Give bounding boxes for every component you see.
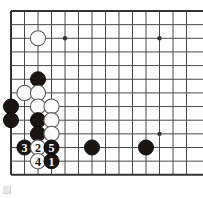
move-number-label: 2 (35, 141, 41, 155)
stone-move-5[interactable]: 5 (44, 140, 59, 155)
go-board-canvas[interactable]: 32541 (0, 0, 203, 198)
white-stone-disc (17, 85, 32, 100)
stone-black[interactable] (84, 140, 99, 155)
corner-fold-mark (3, 186, 11, 194)
white-stone-disc (30, 31, 45, 46)
stone-white[interactable] (30, 31, 45, 46)
move-number-label: 1 (49, 155, 55, 169)
stone-move-1[interactable]: 1 (44, 154, 59, 169)
white-stone-disc (44, 99, 59, 114)
star-point-lower-right (157, 132, 161, 136)
stone-black[interactable] (30, 72, 45, 87)
black-stone-disc (84, 140, 99, 155)
star-point-upper-left (63, 36, 67, 40)
black-stone-disc (30, 126, 45, 141)
stone-move-4[interactable]: 4 (30, 154, 45, 169)
stone-white[interactable] (44, 126, 59, 141)
black-stone-disc (3, 113, 18, 128)
stone-black[interactable] (30, 126, 45, 141)
stone-black[interactable] (3, 113, 18, 128)
black-stone-disc (30, 113, 45, 128)
white-stone-disc (44, 126, 59, 141)
stone-white[interactable] (17, 85, 32, 100)
stone-white[interactable] (44, 113, 59, 128)
white-stone-disc (30, 99, 45, 114)
go-board-diagram: 32541 (0, 0, 203, 198)
star-point-upper-right (157, 36, 161, 40)
stone-black[interactable] (30, 113, 45, 128)
stone-white[interactable] (30, 85, 45, 100)
black-stone-disc (3, 99, 18, 114)
stone-move-2[interactable]: 2 (30, 140, 45, 155)
white-stone-disc (30, 85, 45, 100)
move-number-label: 5 (49, 141, 55, 155)
move-number-label: 3 (22, 141, 28, 155)
stone-black[interactable] (138, 140, 153, 155)
black-stone-disc (138, 140, 153, 155)
black-stone-disc (30, 72, 45, 87)
stone-white[interactable] (44, 99, 59, 114)
stone-move-3[interactable]: 3 (17, 140, 32, 155)
stone-white[interactable] (30, 99, 45, 114)
board-star-points (63, 36, 162, 136)
white-stone-disc (44, 113, 59, 128)
move-number-label: 4 (35, 155, 41, 169)
stone-black[interactable] (3, 99, 18, 114)
